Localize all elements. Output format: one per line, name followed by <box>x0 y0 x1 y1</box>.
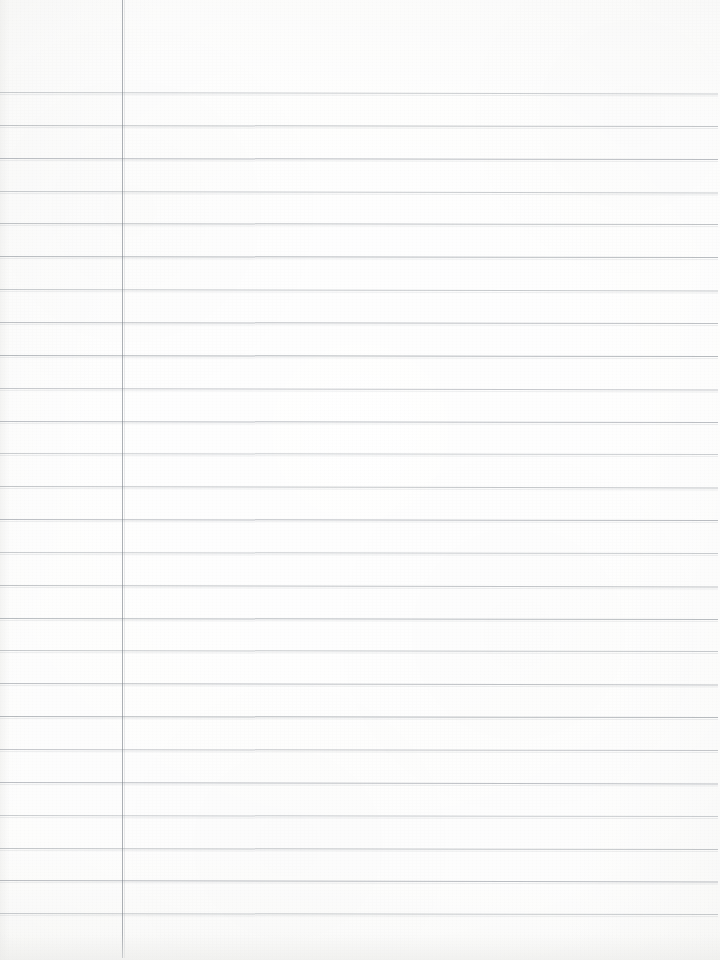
left-edge-shading <box>0 0 14 960</box>
bottom-edge-shading <box>0 934 720 960</box>
notebook-page <box>0 0 720 960</box>
writing-area[interactable] <box>123 60 718 930</box>
